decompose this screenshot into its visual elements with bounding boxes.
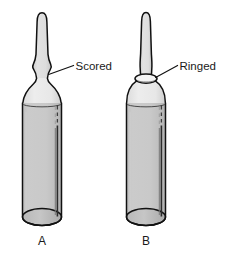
callout-scored-leader-line — [49, 65, 74, 74]
ampule-comparison-figure: Scored Ringed A B — [0, 0, 227, 253]
callout-ringed-leader-line — [156, 65, 178, 77]
ampule-b — [127, 13, 166, 226]
ampule-b-neck-ring — [135, 74, 157, 83]
callout-scored-label: Scored — [76, 60, 112, 72]
specimen-letter-a: A — [38, 234, 46, 248]
specimen-letter-b: B — [142, 234, 150, 248]
callout-scored: Scored — [49, 60, 112, 75]
ampule-a-shoulder — [23, 78, 61, 103]
callout-ringed-label: Ringed — [180, 60, 216, 72]
callout-ringed: Ringed — [156, 60, 216, 78]
ampule-a — [23, 13, 62, 226]
figure-canvas: Scored Ringed A B — [0, 0, 227, 253]
ampule-a-stem — [33, 13, 52, 79]
